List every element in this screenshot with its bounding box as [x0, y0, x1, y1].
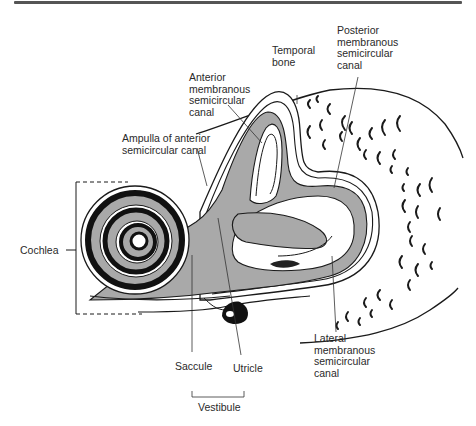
label-vestibule: Vestibule: [198, 402, 241, 414]
label-utricle: Utricle: [233, 363, 263, 375]
label-cochlea: Cochlea: [20, 245, 59, 257]
label-lateral-canal: Lateral membranous semicircular canal: [314, 333, 375, 379]
label-posterior-canal: Posterior membranous semicircular canal: [337, 25, 398, 71]
label-ampulla: Ampulla of anterior semicircular canal: [122, 133, 210, 156]
label-anterior-canal: Anterior membranous semicircular canal: [189, 72, 250, 118]
cochlea-spiral: [81, 186, 189, 294]
label-saccule: Saccule: [175, 361, 212, 373]
label-temporal-bone: Temporal bone: [272, 45, 315, 68]
